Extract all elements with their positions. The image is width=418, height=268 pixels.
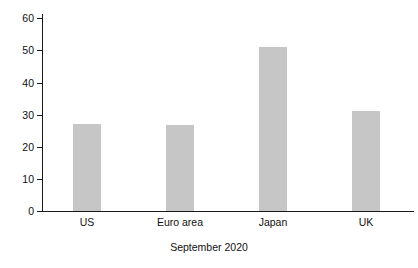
x-axis-tick-label-uk: UK	[326, 216, 406, 228]
y-axis-line	[42, 14, 43, 212]
y-axis-tick-label-10: 10	[14, 174, 34, 184]
y-axis-tick-10	[37, 179, 42, 180]
y-axis-tick-label-50: 50	[14, 45, 34, 55]
bar-euro-area	[166, 125, 194, 211]
bar-japan	[259, 47, 287, 211]
x-axis-tick-label-euro-area: Euro area	[140, 216, 220, 228]
x-axis-tick-label-us: US	[47, 216, 127, 228]
bar-us	[73, 124, 101, 211]
y-axis-tick-40	[37, 83, 42, 84]
y-axis-tick-30	[37, 115, 42, 116]
y-axis-tick-0	[37, 211, 42, 212]
y-axis-tick-50	[37, 50, 42, 51]
y-axis-tick-label-30: 30	[14, 110, 34, 120]
y-axis-tick-20	[37, 147, 42, 148]
bar-uk	[352, 111, 380, 211]
bar-chart-figure: Share of central government bonds 60 50 …	[0, 0, 418, 268]
y-axis-tick-label-20: 20	[14, 142, 34, 152]
y-axis-tick-label-40: 40	[14, 78, 34, 88]
y-axis-tick-60	[37, 18, 42, 19]
x-axis-title: September 2020	[0, 241, 418, 253]
x-axis-line	[42, 211, 414, 212]
y-axis-tick-label-60: 60	[14, 13, 34, 23]
x-axis-tick-label-japan: Japan	[233, 216, 313, 228]
y-axis-tick-label-0: 0	[14, 206, 34, 216]
